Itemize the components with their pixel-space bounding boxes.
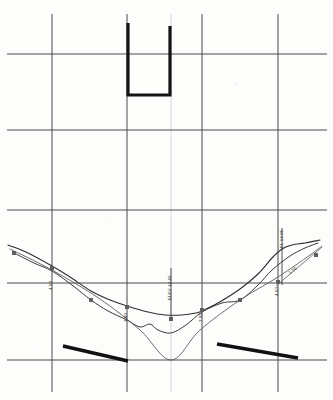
callout-leaders (171, 228, 322, 318)
station-marker-8 (314, 253, 318, 257)
station-marker-2 (89, 298, 93, 302)
label-station-mid-left: 3.80 (124, 313, 128, 322)
u-channel-section (128, 23, 170, 95)
leader-right-diagonal (276, 247, 322, 286)
middle-profile-line (14, 243, 318, 333)
upper-profile-line (8, 240, 320, 315)
station-marker-5 (200, 308, 204, 312)
tie-bars (63, 344, 298, 361)
label-center-elevation: ELEV 12.40 (168, 276, 172, 300)
right-tie-bar (217, 344, 298, 358)
drawing-sheet: 4.503.80ELEV 12.403.954.60EL 14.851:50 (0, 0, 333, 400)
station-marker-7 (276, 280, 280, 284)
profile-diagram (0, 0, 333, 400)
station-marker-1 (50, 266, 54, 270)
label-right-top: EL 14.85 (280, 230, 284, 248)
v-datum-line (10, 246, 322, 360)
label-station-right: 4.60 (275, 287, 279, 296)
u-channel-section (128, 23, 170, 95)
left-tie-bar (63, 346, 128, 361)
station-marker-0 (12, 251, 16, 255)
station-marker-3 (125, 305, 129, 309)
label-station-left: 4.50 (49, 281, 53, 290)
label-station-mid-right: 3.95 (199, 313, 203, 322)
station-markers (12, 251, 318, 321)
profile-curves (8, 240, 322, 360)
grid-lines (7, 14, 327, 392)
station-marker-4 (169, 317, 173, 321)
station-marker-6 (238, 298, 242, 302)
